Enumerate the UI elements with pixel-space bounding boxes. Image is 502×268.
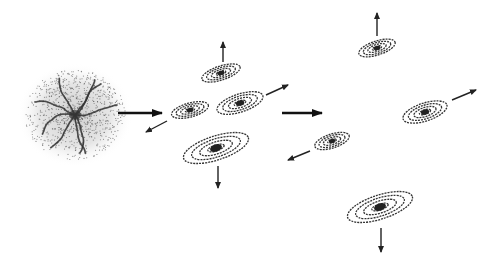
recession-arrow bbox=[452, 90, 476, 100]
recession-arrow bbox=[266, 85, 288, 95]
recession-arrow bbox=[288, 151, 310, 160]
spiral-galaxy bbox=[180, 126, 252, 170]
spiral-galaxy bbox=[200, 60, 242, 86]
hubble-expansion-diagram bbox=[0, 0, 502, 268]
spiral-galaxy bbox=[170, 98, 210, 121]
spiral-galaxy bbox=[357, 35, 397, 60]
spiral-galaxy bbox=[400, 96, 449, 127]
spiral-galaxy bbox=[313, 129, 352, 153]
diagram-canvas bbox=[0, 0, 502, 268]
spiral-galaxy bbox=[344, 185, 416, 229]
spiral-galaxy bbox=[214, 87, 265, 119]
protogalactic-cloud bbox=[17, 63, 133, 167]
motion-arrows bbox=[118, 13, 476, 252]
galaxies-layer bbox=[170, 35, 450, 228]
recession-arrow bbox=[146, 121, 167, 132]
